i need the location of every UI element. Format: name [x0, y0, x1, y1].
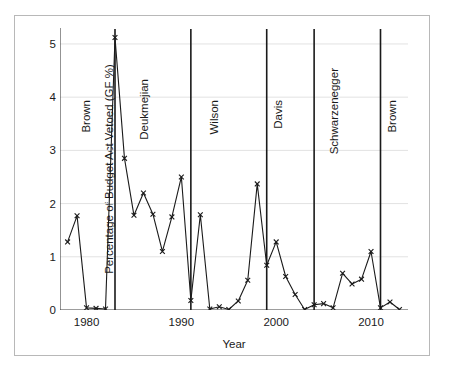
- governor-label: Wilson: [209, 100, 221, 135]
- x-axis-tick-labels: 1980199020002010: [60, 316, 408, 334]
- governor-label: Brown: [387, 100, 399, 133]
- governor-label: Davis: [273, 100, 285, 129]
- x-tick-label: 1990: [169, 316, 195, 328]
- data-point-marker: [65, 239, 70, 244]
- governor-label: Deukmejian: [139, 79, 151, 140]
- x-axis-title: Year: [60, 338, 408, 350]
- x-tick-label: 2000: [263, 316, 289, 328]
- y-tick-label: 3: [34, 144, 56, 156]
- data-point-marker: [350, 282, 355, 287]
- plot-area: BrownDeukmejianWilsonDavisSchwarzenegger…: [60, 28, 408, 310]
- governor-label: Brown: [81, 100, 93, 133]
- x-tick-label: 2010: [358, 316, 384, 328]
- figure-canvas: Percentage of Budget Act Vetoed (GF %) 0…: [0, 0, 449, 386]
- governor-label: Schwarzenegger: [329, 68, 341, 154]
- y-tick-label: 5: [34, 38, 56, 50]
- chart-svg: [60, 28, 408, 310]
- y-axis-tick-labels: 012345: [30, 28, 56, 310]
- data-line-series: [68, 38, 400, 310]
- data-point-marker: [236, 299, 241, 304]
- data-point-marker: [388, 300, 393, 305]
- y-tick-label: 1: [34, 251, 56, 263]
- data-point-marker: [141, 191, 146, 196]
- y-tick-label: 2: [34, 198, 56, 210]
- y-tick-label: 4: [34, 91, 56, 103]
- x-tick-label: 1980: [74, 316, 100, 328]
- y-tick-label: 0: [34, 304, 56, 316]
- data-point-marker: [293, 292, 298, 297]
